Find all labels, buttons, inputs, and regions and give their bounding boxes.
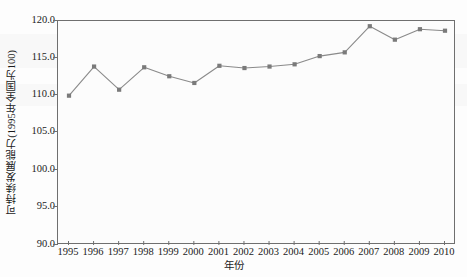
series-line-chart [58,21,455,244]
data-point [217,64,221,68]
x-axis-tick-labels: 1995199619971998199920002001200220032004… [57,246,455,260]
x-axis-title: 年份 [0,260,467,272]
data-point [443,29,447,33]
data-markers [67,24,447,98]
data-point [142,65,146,69]
y-axis-ticks [50,14,60,252]
data-point [67,94,71,98]
data-point [117,88,121,92]
plot-area [57,20,455,244]
data-point [242,66,246,70]
data-point [343,50,347,54]
data-point [293,62,297,66]
y-axis-title-text: 可持续发展能力(1995年全国为100) [7,50,18,215]
data-point [92,64,96,68]
data-point [192,81,196,85]
data-point [418,27,422,31]
x-tick-label: 2010 [427,246,461,258]
data-point [368,24,372,28]
data-point [318,54,322,58]
data-line [69,26,445,95]
x-axis-title-text: 年份 [224,260,244,271]
data-point [167,74,171,78]
data-point [393,38,397,42]
chart-figure: 可持续发展能力(1995年全国为100) 120.0 115.0 110.0 1… [0,0,467,277]
data-point [267,64,271,68]
